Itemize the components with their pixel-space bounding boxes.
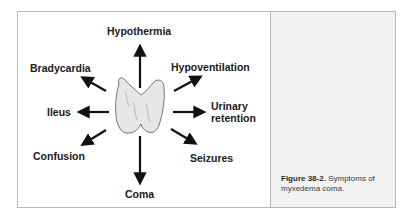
symptom-confusion: Confusion (33, 150, 85, 162)
arrow-up-right (174, 78, 198, 91)
arrow-down-right (171, 129, 193, 142)
symptom-hypoventilation: Hypoventilation (171, 61, 250, 73)
symptom-urinary-retention-line2: retention (211, 112, 256, 124)
symptom-bradycardia: Bradycardia (30, 62, 91, 74)
figure-frame: Hypothermia Bradycardia Hypoventilation … (17, 11, 396, 208)
symptom-urinary-retention-line1: Urinary (211, 100, 248, 112)
symptom-seizures: Seizures (190, 152, 233, 164)
caption-panel: Figure 38-2. Symptoms of myxedema coma. (271, 12, 395, 207)
symptom-coma: Coma (125, 188, 154, 200)
figure-number: Figure 38-2. (281, 174, 326, 183)
symptom-hypothermia: Hypothermia (107, 25, 171, 37)
symptom-ileus: Ileus (47, 106, 71, 118)
arrow-up-left (85, 79, 106, 91)
diagram-panel: Hypothermia Bradycardia Hypoventilation … (18, 12, 271, 207)
arrow-down-left (85, 130, 106, 143)
figure-caption: Figure 38-2. Symptoms of myxedema coma. (281, 174, 391, 194)
